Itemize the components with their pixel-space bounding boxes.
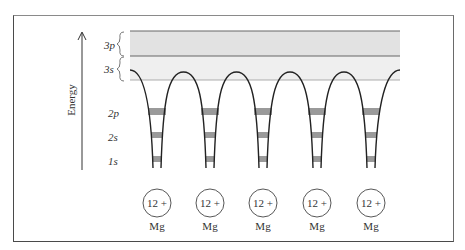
band-3s	[130, 56, 400, 80]
ion-element: Mg	[309, 220, 325, 232]
brace-3p-icon	[117, 32, 124, 56]
ion-1: 12 + Mg	[143, 189, 171, 232]
potential-wells	[148, 108, 380, 162]
energy-arrow	[78, 32, 86, 170]
energy-band-diagram: Energy 3p 3s 2p 2s 1s 12 + Mg 12 +	[0, 0, 465, 250]
ion-charge: 12 +	[147, 197, 167, 209]
well-4-levels	[308, 108, 326, 162]
potential-curve	[130, 70, 400, 168]
band-3p	[130, 31, 400, 56]
band-label-3s: 3s	[103, 63, 114, 75]
ion-charge: 12 +	[200, 197, 220, 209]
ion-4: 12 + Mg	[303, 189, 331, 232]
ion-charge: 12 +	[253, 197, 273, 209]
ion-element: Mg	[202, 220, 218, 232]
ion-charge: 12 +	[361, 197, 381, 209]
ion-element: Mg	[255, 220, 271, 232]
ion-element: Mg	[363, 220, 379, 232]
energy-axis-label: Energy	[65, 84, 77, 116]
ion-2: 12 + Mg	[196, 189, 224, 232]
ion-charge: 12 +	[307, 197, 327, 209]
brace-3s-icon	[117, 57, 124, 81]
band-label-3p: 3p	[103, 39, 116, 51]
ion-element: Mg	[149, 220, 165, 232]
ion-3: 12 + Mg	[249, 189, 277, 232]
ion-5: 12 + Mg	[357, 189, 385, 232]
level-label-2s: 2s	[108, 131, 118, 143]
level-label-1s: 1s	[108, 155, 118, 167]
level-label-2p: 2p	[108, 107, 120, 119]
